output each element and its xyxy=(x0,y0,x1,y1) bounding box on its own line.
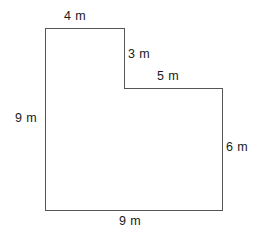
dimension-label-bottom: 9 m xyxy=(119,215,141,228)
dimension-label-top: 4 m xyxy=(64,10,86,23)
dimension-label-step-vertical: 3 m xyxy=(128,48,150,61)
dimension-label-right: 6 m xyxy=(226,141,248,154)
dimension-label-left: 9 m xyxy=(15,112,37,125)
dimension-label-step-horizontal: 5 m xyxy=(157,70,179,83)
geometry-figure: 4 m 3 m 5 m 6 m 9 m 9 m xyxy=(0,0,263,241)
l-shape-outline xyxy=(0,0,263,241)
